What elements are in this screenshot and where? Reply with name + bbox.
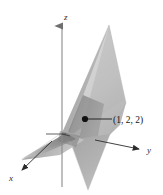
- point-marker: [82, 116, 88, 122]
- point-label: (1, 2, 2): [113, 115, 143, 126]
- z-axis-label: z: [63, 12, 68, 22]
- y-axis-label: y: [146, 145, 151, 155]
- plane-surface: [21, 25, 126, 190]
- figure-container: z y x (1, 2, 2): [0, 0, 163, 195]
- plane-diagram-svg: z y x (1, 2, 2): [0, 0, 163, 195]
- x-axis-label: x: [8, 173, 13, 183]
